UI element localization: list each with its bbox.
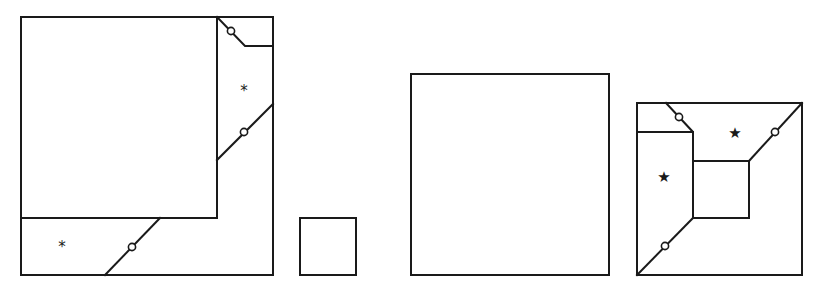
- diagram-svg: * * ★ ★: [0, 0, 821, 293]
- asterisk-mark: *: [240, 82, 248, 100]
- fig4-inner-square: [693, 161, 749, 218]
- fig1-node-bottom: [128, 243, 135, 250]
- fig1-node-top: [227, 27, 234, 34]
- fig4-node-top-left: [675, 113, 682, 120]
- star-mark: ★: [657, 168, 670, 186]
- fig1-outer-square: [21, 17, 273, 275]
- figure-3: [411, 74, 609, 275]
- fig4-node-bottom-left: [661, 242, 668, 249]
- fig1-node-right: [240, 128, 247, 135]
- figure-4: ★ ★: [637, 103, 802, 275]
- fig1-top-right-cut: [217, 17, 273, 46]
- diagram-canvas: * * ★ ★: [0, 0, 821, 293]
- figure-1: * *: [21, 17, 273, 275]
- fig3-medium-square: [411, 74, 609, 275]
- star-mark: ★: [728, 124, 741, 142]
- fig1-inner-square-edges: [21, 17, 217, 218]
- fig2-small-square: [300, 218, 356, 275]
- fig4-node-top-right: [771, 128, 778, 135]
- figure-2: [300, 218, 356, 275]
- asterisk-mark: *: [58, 238, 66, 256]
